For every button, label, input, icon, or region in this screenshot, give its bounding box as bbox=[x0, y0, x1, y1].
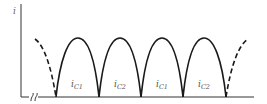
y-axis-label: i bbox=[13, 6, 16, 16]
lobe-label-2: iC2 bbox=[114, 79, 126, 91]
left-dashed-arc bbox=[35, 39, 56, 97]
lobe-label-4: iC2 bbox=[198, 79, 210, 91]
lobe-label-3: iC1 bbox=[156, 79, 168, 91]
lobe-label-1: iC1 bbox=[71, 79, 83, 91]
waveform-diagram: i iC1 iC2 iC1 iC2 bbox=[0, 0, 267, 104]
axis-break-icon bbox=[29, 93, 38, 101]
right-dashed-arc bbox=[226, 39, 248, 97]
